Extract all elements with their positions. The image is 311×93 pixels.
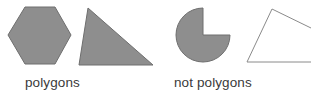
diagram-canvas: polygons not polygons	[0, 0, 311, 93]
open-outline-shape	[247, 9, 311, 62]
circle-sector-shape	[176, 8, 230, 62]
group-label-polygons: polygons	[25, 76, 80, 90]
group-label-not-polygons: not polygons	[174, 76, 252, 90]
triangle-shape	[79, 8, 153, 65]
hexagon-shape	[8, 7, 71, 64]
